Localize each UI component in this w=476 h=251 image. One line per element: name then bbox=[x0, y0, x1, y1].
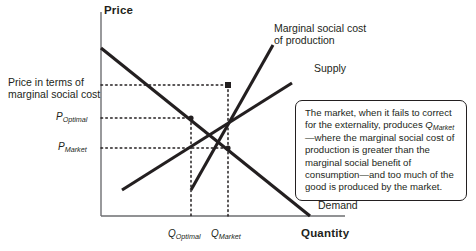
q-market-axis-label: QMarket bbox=[211, 228, 241, 240]
supply-curve bbox=[122, 83, 292, 190]
p-optimal-axis-label: POptimal bbox=[56, 111, 87, 123]
msc-label-line2: of production bbox=[274, 34, 335, 46]
q-market-base: Q bbox=[211, 228, 219, 239]
msc-price-annotation: Price in terms ofmarginal social cost bbox=[8, 76, 100, 101]
p-optimal-base: P bbox=[56, 111, 63, 122]
supply-curve-label: Supply bbox=[314, 62, 346, 74]
q-optimal-axis-label: QOptimal bbox=[168, 228, 201, 240]
demand-curve-label: Demand bbox=[318, 199, 358, 211]
price-axis-label: Price bbox=[104, 4, 133, 18]
marginal-social-cost-curve bbox=[191, 45, 273, 190]
explanation-q-symbol: Q bbox=[425, 119, 432, 130]
p-market-subscript: Market bbox=[65, 145, 87, 154]
p-optimal-subscript: Optimal bbox=[63, 115, 88, 124]
q-market-subscript: Market bbox=[219, 232, 241, 241]
msc-price-line2: marginal social cost bbox=[8, 88, 100, 100]
market-equilibrium-marker bbox=[225, 145, 230, 150]
p-market-axis-label: PMarket bbox=[58, 141, 87, 153]
msc-price-marker bbox=[225, 82, 231, 88]
explanation-callout-box: The market, when it fails to correct for… bbox=[295, 100, 467, 201]
q-optimal-subscript: Optimal bbox=[176, 232, 201, 241]
msc-price-line1: Price in terms of bbox=[8, 76, 84, 88]
demand-curve bbox=[101, 48, 310, 216]
quantity-axis-label: Quantity bbox=[301, 227, 349, 241]
marginal-social-cost-curve-label: Marginal social costof production bbox=[274, 22, 366, 47]
externality-supply-demand-figure: Price Quantity Marginal social costof pr… bbox=[0, 0, 476, 251]
p-market-base: P bbox=[58, 141, 65, 152]
optimal-equilibrium-marker bbox=[188, 115, 193, 120]
q-optimal-base: Q bbox=[168, 228, 176, 239]
msc-label-line1: Marginal social cost bbox=[274, 22, 366, 34]
explanation-part2: —where the marginal social cost of produ… bbox=[305, 132, 454, 193]
explanation-q-subscript: Market bbox=[433, 124, 454, 131]
